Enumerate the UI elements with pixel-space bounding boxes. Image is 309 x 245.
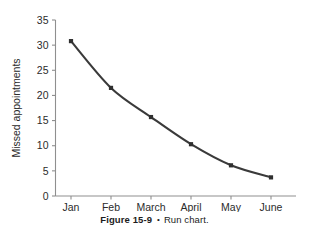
series-line-missed-appointments bbox=[71, 41, 271, 177]
y-axis-tick-label: 5 bbox=[43, 165, 49, 177]
chart-plot-area: 05101520253035 JanFebMarchAprilMayJune M… bbox=[0, 0, 309, 212]
data-point-marker bbox=[109, 86, 113, 90]
y-axis-tick-label: 10 bbox=[37, 139, 49, 151]
data-point-marker bbox=[149, 115, 153, 119]
y-axis-tick-label: 0 bbox=[43, 190, 49, 202]
y-axis-tick-label: 15 bbox=[37, 114, 49, 126]
data-point-marker bbox=[229, 163, 233, 167]
x-axis-ticks: JanFebMarchAprilMayJune bbox=[63, 196, 283, 212]
figure-caption-text: Run chart. bbox=[164, 214, 209, 225]
chart-axes bbox=[56, 20, 297, 196]
x-axis-tick-label: May bbox=[221, 201, 242, 212]
data-point-marker bbox=[269, 175, 273, 179]
figure-caption: Figure 15-9•Run chart. bbox=[0, 213, 309, 226]
series-markers bbox=[69, 39, 273, 179]
y-axis-tick-label: 25 bbox=[37, 64, 49, 76]
x-axis-tick-label: Feb bbox=[102, 201, 120, 212]
x-axis-tick-label: March bbox=[136, 201, 165, 212]
data-point-marker bbox=[189, 142, 193, 146]
y-axis-tick-label: 20 bbox=[37, 89, 49, 101]
run-chart-svg: 05101520253035 JanFebMarchAprilMayJune M… bbox=[0, 0, 309, 212]
y-axis-tick-label: 35 bbox=[37, 14, 49, 26]
x-axis-tick-label: April bbox=[180, 201, 201, 212]
y-axis-tick-label: 30 bbox=[37, 39, 49, 51]
data-point-marker bbox=[69, 39, 73, 43]
caption-bullet-icon: • bbox=[152, 213, 164, 226]
y-axis-ticks: 05101520253035 bbox=[37, 14, 56, 202]
chart-series bbox=[69, 39, 273, 179]
figure-number: Figure 15-9 bbox=[100, 214, 152, 225]
figure-container: 05101520253035 JanFebMarchAprilMayJune M… bbox=[0, 0, 309, 245]
x-axis-tick-label: June bbox=[260, 201, 283, 212]
x-axis-tick-label: Jan bbox=[63, 201, 80, 212]
y-axis-title: Missed appointments bbox=[10, 58, 22, 157]
